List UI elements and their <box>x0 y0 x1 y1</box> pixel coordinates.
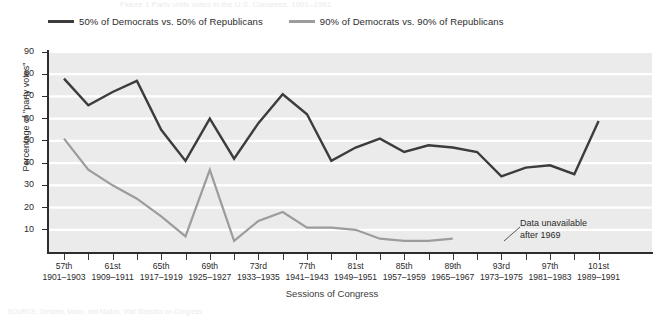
x-axis-tick <box>113 254 114 260</box>
x-axis-tick <box>574 254 575 260</box>
y-axis-tick <box>42 163 47 164</box>
x-axis-tick <box>258 254 259 260</box>
x-axis-tick <box>64 254 65 260</box>
y-axis-tick <box>42 140 47 141</box>
y-axis-tick-label: 50 <box>8 136 34 145</box>
x-axis-tick <box>283 254 284 260</box>
x-axis-tick-label: 101st1989–1991 <box>567 261 631 283</box>
y-axis-tick <box>42 207 47 208</box>
data-unavailable-annotation: Data unavailable after 1969 <box>520 218 587 241</box>
series-line-50-percent <box>64 79 599 177</box>
y-axis-tick-label: 60 <box>8 114 34 123</box>
y-axis-tick <box>42 118 47 119</box>
x-axis-tick <box>599 254 600 260</box>
x-axis-tick <box>429 254 430 260</box>
x-axis-tick <box>404 254 405 260</box>
x-tick-session: 101st <box>567 261 631 272</box>
x-axis-tick <box>137 254 138 260</box>
x-axis-tick <box>88 254 89 260</box>
series-line-90-percent <box>64 139 453 241</box>
chart-legend: 50% of Democrats vs. 50% of Republicans … <box>48 14 504 28</box>
x-axis-tick <box>477 254 478 260</box>
y-axis-tick-label: 20 <box>8 203 34 212</box>
figure-container: Figure 1 Party unity votes in the U.S. C… <box>0 0 664 316</box>
x-axis-tick <box>380 254 381 260</box>
annotation-leader-line <box>503 226 521 242</box>
x-tick-years: 1989–1991 <box>567 272 631 283</box>
legend-label-50: 50% of Democrats vs. 50% of Republicans <box>79 16 263 27</box>
x-axis-tick <box>356 254 357 260</box>
source-footnote-crop: SOURCE: Ornstein, Mann, and Malbin, Vita… <box>8 307 568 316</box>
legend-swatch-icon-50 <box>48 20 74 23</box>
y-axis-tick <box>42 74 47 75</box>
x-axis-tick <box>331 254 332 260</box>
y-axis-tick-label: 70 <box>8 91 34 100</box>
annotation-line-1: Data unavailable <box>520 218 587 230</box>
y-axis-tick-label: 30 <box>8 180 34 189</box>
x-axis-tick <box>234 254 235 260</box>
x-axis-tick <box>526 254 527 260</box>
legend-entry-50: 50% of Democrats vs. 50% of Republicans <box>48 16 263 27</box>
y-axis-tick <box>42 52 47 53</box>
x-axis-title: Sessions of Congress <box>0 288 664 299</box>
y-axis-line <box>47 50 49 254</box>
x-axis-tick <box>550 254 551 260</box>
y-axis-tick <box>42 229 47 230</box>
y-axis-tick-label: 40 <box>8 158 34 167</box>
y-axis-tick <box>42 185 47 186</box>
x-axis-line <box>47 252 653 254</box>
legend-label-90: 90% of Democrats vs. 90% of Republicans <box>320 16 504 27</box>
y-axis-tick-label: 90 <box>8 47 34 56</box>
x-axis-tick <box>307 254 308 260</box>
y-axis-tick <box>42 96 47 97</box>
legend-entry-90: 90% of Democrats vs. 90% of Republicans <box>289 16 504 27</box>
y-axis-tick-label: 80 <box>8 69 34 78</box>
x-axis-tick <box>210 254 211 260</box>
x-axis-tick <box>186 254 187 260</box>
y-axis-tick-label: 10 <box>8 225 34 234</box>
x-axis-tick <box>161 254 162 260</box>
annotation-line-2: after 1969 <box>520 230 587 242</box>
figure-title-crop: Figure 1 Party unity votes in the U.S. C… <box>120 0 540 7</box>
legend-swatch-icon-90 <box>289 20 315 23</box>
x-axis-tick <box>453 254 454 260</box>
x-axis-tick <box>501 254 502 260</box>
